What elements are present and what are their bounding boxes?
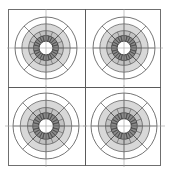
panel-bottom-right-rose <box>83 85 165 167</box>
panel-top-left-rose <box>7 9 85 87</box>
figure-canvas <box>0 0 170 175</box>
panel-top-right-rose <box>85 9 163 87</box>
panel-bottom-left-rose <box>5 85 87 167</box>
rose-diagram-layer <box>0 0 170 175</box>
